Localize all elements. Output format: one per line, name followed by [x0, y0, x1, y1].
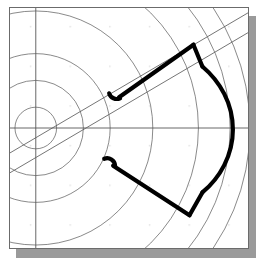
cad-drawing[interactable]: [10, 8, 248, 248]
drawing-canvas-frame[interactable]: [9, 7, 249, 249]
cad-viewer: polar-array-slot px polar-origin Polar s…: [0, 0, 258, 260]
